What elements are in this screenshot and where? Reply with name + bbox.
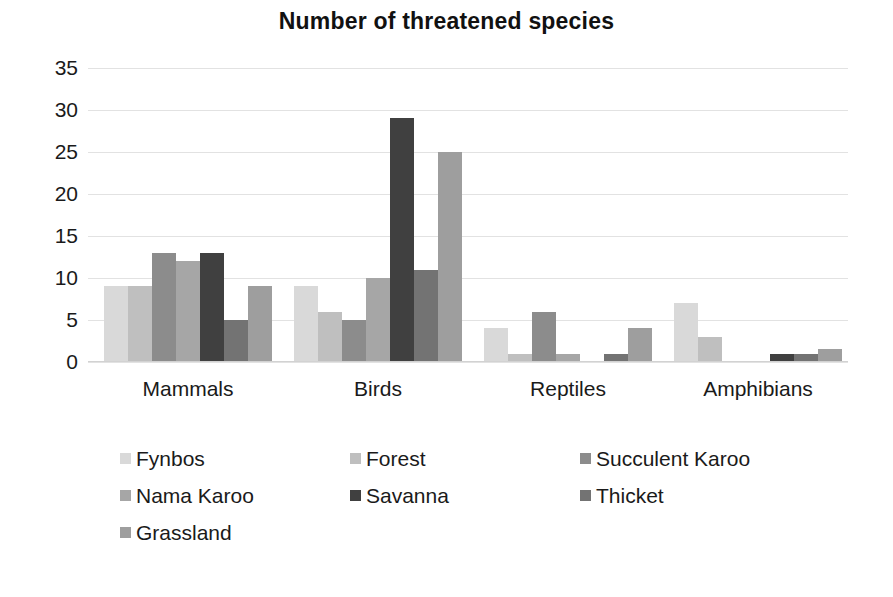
bar[interactable] (628, 328, 652, 362)
legend-item[interactable]: Grassland (120, 522, 350, 543)
bar[interactable] (200, 253, 224, 362)
bars-layer (88, 68, 848, 362)
y-axis-tick-label: 30 (55, 98, 78, 122)
legend-row: FynbosForestSucculent Karoo (120, 440, 820, 477)
y-axis-tick-label: 0 (66, 350, 78, 374)
legend-item[interactable]: Forest (350, 448, 580, 469)
legend-swatch-icon (350, 490, 361, 501)
y-axis-tick-label: 5 (66, 308, 78, 332)
bar-group (484, 68, 652, 362)
y-axis-tick-label: 15 (55, 224, 78, 248)
chart-title: Number of threatened species (0, 8, 893, 35)
bar[interactable] (484, 328, 508, 362)
legend-item[interactable]: Succulent Karoo (580, 448, 820, 469)
x-axis-tick-label: Reptiles (530, 377, 606, 401)
bar[interactable] (366, 278, 390, 362)
x-axis-tick-label: Birds (354, 377, 402, 401)
bar[interactable] (698, 337, 722, 362)
legend-swatch-icon (580, 453, 591, 464)
gridline (88, 362, 848, 363)
legend-swatch-icon (120, 453, 131, 464)
y-axis-tick-label: 25 (55, 140, 78, 164)
bar-group (674, 68, 842, 362)
legend-row: Nama KarooSavannaThicket (120, 477, 820, 514)
bar[interactable] (176, 261, 200, 362)
legend-label: Forest (366, 448, 426, 469)
legend-item[interactable]: Savanna (350, 485, 580, 506)
bar[interactable] (318, 312, 342, 362)
y-axis-tick-label: 20 (55, 182, 78, 206)
legend-row: Grassland (120, 514, 820, 551)
bar[interactable] (152, 253, 176, 362)
bar[interactable] (390, 118, 414, 362)
chart-legend: FynbosForestSucculent KarooNama KarooSav… (120, 440, 820, 551)
bar[interactable] (294, 286, 318, 362)
bar[interactable] (248, 286, 272, 362)
plot-area (88, 68, 848, 362)
bar[interactable] (128, 286, 152, 362)
bar[interactable] (414, 270, 438, 362)
x-axis-tick-label: Mammals (142, 377, 233, 401)
bar[interactable] (532, 312, 556, 362)
x-axis-tick-label: Amphibians (703, 377, 813, 401)
bar[interactable] (224, 320, 248, 362)
legend-label: Fynbos (136, 448, 205, 469)
x-axis: MammalsBirdsReptilesAmphibians (88, 377, 848, 407)
legend-item[interactable]: Fynbos (120, 448, 350, 469)
legend-label: Thicket (596, 485, 664, 506)
legend-swatch-icon (120, 527, 131, 538)
bar[interactable] (674, 303, 698, 362)
legend-swatch-icon (580, 490, 591, 501)
y-axis-tick-label: 10 (55, 266, 78, 290)
legend-label: Savanna (366, 485, 449, 506)
legend-label: Nama Karoo (136, 485, 254, 506)
bar-group (294, 68, 462, 362)
bar[interactable] (104, 286, 128, 362)
legend-item[interactable]: Nama Karoo (120, 485, 350, 506)
bar-chart: Number of threatened species 35302520151… (0, 0, 893, 597)
legend-label: Grassland (136, 522, 232, 543)
legend-item[interactable]: Thicket (580, 485, 820, 506)
legend-label: Succulent Karoo (596, 448, 750, 469)
y-axis: 35302520151050 (28, 68, 78, 362)
legend-swatch-icon (350, 453, 361, 464)
bar-group (104, 68, 272, 362)
legend-swatch-icon (120, 490, 131, 501)
x-axis-line (88, 361, 848, 362)
bar[interactable] (342, 320, 366, 362)
y-axis-tick-label: 35 (55, 56, 78, 80)
bar[interactable] (438, 152, 462, 362)
